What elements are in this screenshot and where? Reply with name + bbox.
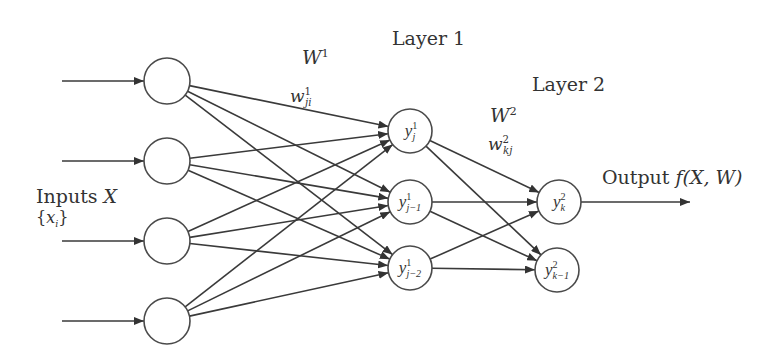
output-label: Output f(X, W) xyxy=(602,168,743,187)
node-label-yj: y1j xyxy=(388,122,432,139)
neural-network-diagram: Layer 1 Layer 2 W1 w1ji W2 w2kj Inputs X… xyxy=(0,0,777,359)
input-node-4 xyxy=(144,298,190,344)
edge-input-to-layer1 xyxy=(188,140,390,231)
edge-input-to-layer1 xyxy=(188,170,390,259)
edge-layer1-to-layer2 xyxy=(432,268,535,269)
weight-matrix-W1: W1 xyxy=(302,48,329,67)
weight-w1-ji: w1ji xyxy=(290,88,311,105)
node-label-yj-2: y1j−2 xyxy=(388,259,432,276)
edge-input-to-layer1 xyxy=(190,244,388,266)
inputs-label: Inputs X xyxy=(36,187,117,206)
inputs-set-label: {xi} xyxy=(36,210,68,226)
node-label-yj-1: y1j−1 xyxy=(388,193,432,210)
input-node-1 xyxy=(144,58,190,104)
layer2-label: Layer 2 xyxy=(532,75,605,94)
weight-matrix-W2: W2 xyxy=(490,106,517,125)
edge-layer1-to-layer2 xyxy=(430,140,539,192)
edge-input-to-layer1 xyxy=(190,205,389,237)
edge-layer1-to-layer2 xyxy=(426,146,541,255)
edge-input-to-layer1 xyxy=(185,95,392,255)
weight-w2-kj: w2kj xyxy=(488,136,512,153)
node-label-yk: y2k xyxy=(537,193,581,210)
edge-input-to-layer1 xyxy=(190,165,389,199)
input-node-2 xyxy=(144,138,190,184)
input-node-3 xyxy=(144,218,190,264)
layer1-label: Layer 1 xyxy=(392,29,465,48)
node-label-yk-1: y2k−1 xyxy=(535,261,579,278)
